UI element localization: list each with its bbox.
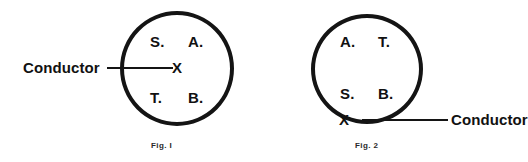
conductor-leader-line-fig1 [107, 67, 173, 69]
quadrant-label-fig2-top-right: T. [378, 34, 390, 49]
edge-x-marker-fig2: X [339, 112, 349, 127]
figure-caption-fig1: Fig. I [151, 141, 172, 150]
figure-caption-fig2: Fig. 2 [355, 141, 378, 150]
circle-outline-fig2 [311, 14, 423, 124]
quadrant-label-fig2-bottom-right: B. [378, 86, 393, 101]
quadrant-label-fig1-top-right: A. [188, 34, 203, 49]
quadrant-label-fig1-top-left: S. [150, 34, 165, 49]
conductor-label-fig1: Conductor [23, 60, 100, 75]
center-x-marker-fig1: X [172, 60, 182, 75]
quadrant-label-fig2-top-left: A. [340, 34, 355, 49]
quadrant-label-fig1-bottom-right: B. [188, 90, 203, 105]
quadrant-label-fig1-bottom-left: T. [150, 90, 162, 105]
conductor-leader-line-fig2 [362, 119, 448, 121]
conductor-label-fig2: Conductor [451, 112, 528, 127]
quadrant-label-fig2-bottom-left: S. [340, 86, 355, 101]
